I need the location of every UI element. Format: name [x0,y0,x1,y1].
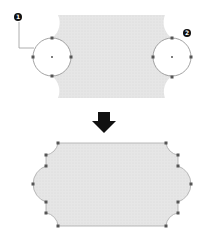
callout-number-1: 1 [16,13,20,20]
anchor-point [190,56,193,59]
anchor-point [171,37,174,40]
anchor-point [51,75,54,78]
anchor-point [171,76,174,79]
callout-1-leader-line [19,22,34,48]
before-shape-group: 1 2 [14,13,193,98]
after-shape [33,143,191,226]
anchor-point [70,56,73,59]
anchor-point [51,37,54,40]
diagram-canvas: 1 2 [0,0,203,235]
callout-number-2: 2 [185,29,189,36]
callout-badge-2: 2 [183,29,191,37]
center-point [51,56,53,58]
down-arrow-icon [92,112,116,133]
center-point [171,56,173,58]
callout-badge-1: 1 [14,13,22,21]
anchor-point [32,56,35,59]
after-shape-group [32,142,193,228]
anchor-point [152,56,155,59]
